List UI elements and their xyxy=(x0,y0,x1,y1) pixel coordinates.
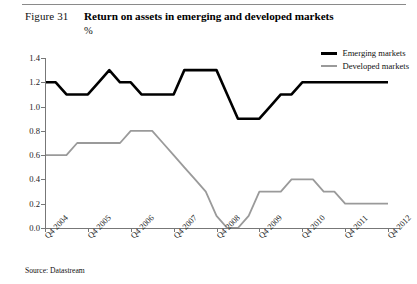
legend-item-emerging: Emerging markets xyxy=(321,48,409,58)
y-axis-label: 1.0 xyxy=(29,102,40,112)
figure-container: Figure 31 Return on assets in emerging a… xyxy=(0,0,417,284)
y-axis xyxy=(45,58,46,228)
y-axis-label: 1.2 xyxy=(29,77,40,87)
y-axis-tick xyxy=(41,131,45,132)
y-axis-tick xyxy=(41,155,45,156)
figure-title: Return on assets in emerging and develop… xyxy=(84,10,334,22)
header-rule xyxy=(22,4,406,5)
y-axis-tick xyxy=(41,58,45,59)
figure-label: Figure 31 xyxy=(25,10,68,22)
y-axis-tick xyxy=(41,179,45,180)
series-line-emerging-markets xyxy=(45,70,388,119)
y-axis-label: 0.4 xyxy=(29,174,40,184)
y-axis-label: 0.8 xyxy=(29,126,40,136)
y-axis-tick xyxy=(41,82,45,83)
source-note: Source: Datastream xyxy=(25,266,85,275)
y-axis-label: 0.2 xyxy=(29,199,40,209)
series-line-developed-markets xyxy=(45,131,388,228)
legend-swatch-emerging-icon xyxy=(321,52,337,55)
y-axis-label: 0.6 xyxy=(29,150,40,160)
plot-area: 0.00.20.40.60.81.01.21.4Q4 2004Q4 2005Q4… xyxy=(45,58,400,228)
y-axis-label: 0.0 xyxy=(29,223,40,233)
series-lines xyxy=(45,58,400,228)
y-axis-label: 1.4 xyxy=(29,53,40,63)
figure-subtitle: % xyxy=(84,25,93,36)
y-axis-tick xyxy=(41,204,45,205)
legend-label-emerging: Emerging markets xyxy=(342,48,405,58)
y-axis-tick xyxy=(41,107,45,108)
